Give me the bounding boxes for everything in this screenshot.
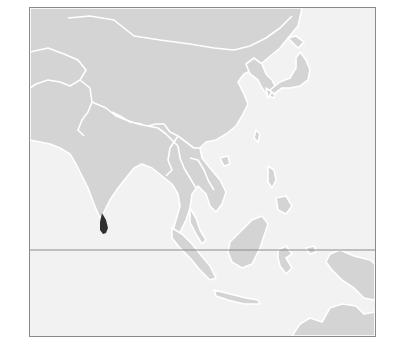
java (214, 290, 260, 304)
sumatra (172, 228, 216, 280)
map-canvas (30, 8, 375, 336)
locator-map: Sri Lanka locator map (29, 7, 376, 337)
borneo (228, 216, 268, 268)
hainan (220, 156, 230, 166)
malay-peninsula (190, 208, 206, 244)
new-guinea (306, 246, 375, 300)
taiwan (254, 130, 260, 142)
australia (292, 304, 375, 336)
asia-mainland (30, 8, 302, 240)
philippines (268, 166, 292, 214)
